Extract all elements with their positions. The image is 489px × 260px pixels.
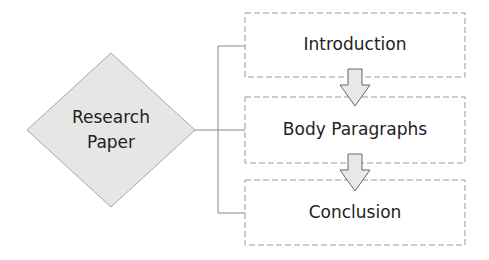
root-label-line1: Research <box>47 105 175 130</box>
root-label: Research Paper <box>47 105 175 155</box>
step-label-introduction: Introduction <box>245 34 465 54</box>
root-label-line2: Paper <box>47 130 175 155</box>
bracket-connector <box>195 46 245 213</box>
step-label-conclusion: Conclusion <box>245 202 465 222</box>
step-label-body: Body Paragraphs <box>245 119 465 139</box>
